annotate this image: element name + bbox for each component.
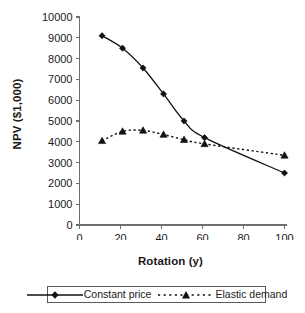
- series-1: [99, 33, 288, 176]
- legend-swatch-solid-diamond-icon: [26, 289, 84, 301]
- series-line: [102, 36, 284, 173]
- y-tick-label: 5000: [48, 115, 72, 127]
- y-tick-label: 4000: [48, 136, 72, 148]
- y-axis-ticks: 0100020003000400050006000700080009000100…: [42, 11, 80, 231]
- legend-label-elastic-demand: Elastic demand: [215, 289, 287, 300]
- chart-figure: 0100020003000400050006000700080009000100…: [0, 0, 305, 313]
- legend-item-elastic-demand: Elastic demand: [157, 289, 287, 301]
- chart-legend: Constant price Elastic demand: [47, 286, 266, 303]
- data-series-layer: [98, 33, 288, 176]
- plot-area: 0100020003000400050006000700080009000100…: [0, 0, 305, 240]
- legend-swatch-dotted-triangle-icon: [157, 289, 215, 301]
- data-point-triangle-icon: [139, 127, 146, 133]
- x-tick-label: 80: [237, 232, 249, 240]
- y-tick-label: 3000: [48, 157, 72, 169]
- chart-svg: 0100020003000400050006000700080009000100…: [0, 0, 305, 240]
- legend-item-constant-price: Constant price: [26, 289, 152, 301]
- x-tick-label: 40: [155, 232, 167, 240]
- x-tick-label: 20: [114, 232, 126, 240]
- legend-label-constant-price: Constant price: [84, 289, 152, 300]
- y-tick-label: 0: [66, 219, 72, 231]
- data-point-triangle-icon: [160, 131, 167, 137]
- y-tick-label: 1000: [48, 198, 72, 210]
- y-tick-label: 7000: [48, 73, 72, 85]
- data-point-triangle-icon: [201, 140, 208, 146]
- x-axis-title: Rotation (y): [0, 255, 305, 267]
- x-tick-label: 100: [275, 232, 293, 240]
- y-tick-label: 9000: [48, 32, 72, 44]
- y-tick-label: 6000: [48, 94, 72, 106]
- x-axis-ticks: 020406080100: [76, 225, 293, 240]
- x-tick-label: 0: [76, 232, 82, 240]
- series-line: [102, 130, 284, 155]
- data-point-diamond-icon: [99, 33, 105, 39]
- data-point-diamond-icon: [281, 170, 287, 176]
- y-tick-label: 2000: [48, 177, 72, 189]
- x-tick-label: 60: [196, 232, 208, 240]
- y-tick-label: 10000: [42, 11, 73, 23]
- y-tick-label: 8000: [48, 53, 72, 65]
- data-point-triangle-icon: [98, 137, 105, 143]
- y-axis-title: NPV ($1,000): [11, 44, 23, 184]
